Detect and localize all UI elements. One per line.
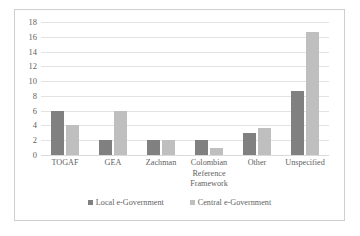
bar[interactable] — [258, 128, 271, 155]
bar[interactable] — [291, 91, 304, 155]
legend-label: Central e-Government — [198, 199, 271, 207]
bar[interactable] — [66, 125, 79, 155]
y-tick-label-12: 12 — [29, 62, 38, 71]
bar[interactable] — [210, 148, 223, 155]
y-tick-label-16: 16 — [29, 32, 38, 41]
bar-group — [233, 22, 281, 155]
legend-swatch-icon — [190, 200, 195, 205]
legend-label: Local e-Government — [96, 199, 164, 207]
bar[interactable] — [243, 133, 256, 155]
bar-group — [89, 22, 137, 155]
y-tick-label-2: 2 — [33, 136, 37, 145]
category-label: Unspecified — [275, 158, 335, 169]
bar-group — [41, 22, 89, 155]
chart-container: 181614121086420 TOGAFGEAZachmanColombian… — [14, 9, 345, 221]
bar-group — [185, 22, 233, 155]
y-tick-label-10: 10 — [29, 77, 38, 86]
bar[interactable] — [195, 140, 208, 155]
y-tick-label-6: 6 — [33, 106, 37, 115]
category-label-line: Framework — [179, 179, 239, 190]
plot-area: 181614121086420 — [41, 22, 329, 155]
bar-series-group — [41, 22, 329, 155]
category-label-line: Reference — [179, 169, 239, 180]
bar[interactable] — [99, 140, 112, 155]
bar[interactable] — [147, 140, 160, 155]
y-tick-label-18: 18 — [29, 18, 38, 27]
chart-legend: Local e-GovernmentCentral e-Government — [15, 199, 344, 207]
legend-item[interactable]: Local e-Government — [88, 199, 164, 207]
y-tick-label-14: 14 — [29, 47, 38, 56]
bar[interactable] — [306, 32, 319, 155]
x-axis-category-labels: TOGAFGEAZachmanColombianReferenceFramewo… — [41, 158, 329, 200]
bar-group — [137, 22, 185, 155]
y-tick-label-8: 8 — [33, 91, 37, 100]
legend-item[interactable]: Central e-Government — [190, 199, 271, 207]
bar-group — [281, 22, 329, 155]
legend-swatch-icon — [88, 200, 93, 205]
bar[interactable] — [51, 111, 64, 155]
category-label-line: Unspecified — [275, 158, 335, 169]
x-axis-line — [41, 155, 329, 156]
bar[interactable] — [162, 140, 175, 155]
bar[interactable] — [114, 111, 127, 155]
y-tick-label-4: 4 — [33, 121, 37, 130]
